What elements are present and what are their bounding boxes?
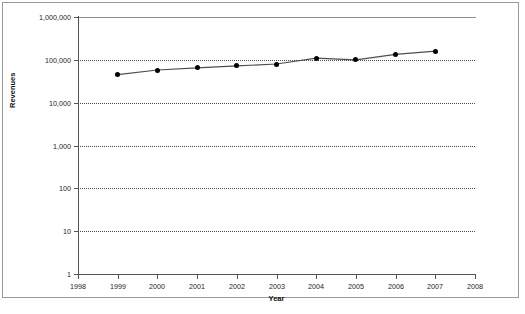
x-tick (356, 275, 357, 279)
x-tick (316, 275, 317, 279)
x-tick-label: 1998 (58, 282, 98, 291)
x-tick (277, 275, 278, 279)
gridline-y (78, 188, 475, 189)
data-point-marker (433, 49, 438, 54)
x-tick-label: 2007 (415, 282, 455, 291)
gridline-y (78, 103, 475, 104)
x-tick (237, 275, 238, 279)
x-tick (396, 275, 397, 279)
y-tick (74, 103, 78, 104)
x-tick-label: 2001 (177, 282, 217, 291)
x-tick (78, 275, 79, 279)
x-tick-label: 2004 (296, 282, 336, 291)
x-tick-label: 2008 (455, 282, 495, 291)
y-tick-label: 100 (9, 184, 71, 193)
x-tick-label: 2003 (257, 282, 297, 291)
y-tick (74, 17, 78, 18)
data-point-marker (274, 62, 279, 67)
data-point-marker (195, 65, 200, 70)
x-axis-title: Year (78, 294, 475, 303)
x-tick-label: 1999 (98, 282, 138, 291)
x-tick-label: 2006 (376, 282, 416, 291)
y-tick-label: 1,000 (9, 142, 71, 151)
gridline-y (78, 60, 475, 61)
y-tick-label: 1,000,000 (9, 13, 71, 22)
x-tick (475, 275, 476, 279)
y-tick (74, 60, 78, 61)
figure-frame (2, 2, 519, 298)
y-tick (74, 146, 78, 147)
x-tick (435, 275, 436, 279)
y-tick (74, 188, 78, 189)
x-tick-label: 2000 (137, 282, 177, 291)
gridline-y (78, 146, 475, 147)
x-tick (157, 275, 158, 279)
y-tick-label: 100,000 (9, 56, 71, 65)
x-tick (197, 275, 198, 279)
x-tick-label: 2002 (217, 282, 257, 291)
plot-area (81, 20, 478, 277)
y-tick (74, 231, 78, 232)
data-point-marker (393, 52, 398, 57)
y-axis-title: Revenues (8, 73, 17, 108)
gridline-y (78, 231, 475, 232)
x-tick-label: 2005 (336, 282, 376, 291)
y-tick-label: 10,000 (9, 99, 71, 108)
data-point-marker (314, 56, 319, 61)
plot-top-border (78, 17, 476, 18)
chart-screenshot: 1101001,00010,000100,0001,000,000 199819… (0, 0, 525, 314)
x-tick (118, 275, 119, 279)
y-tick-label: 10 (9, 227, 71, 236)
y-tick-label: 1 (9, 270, 71, 279)
data-point-marker (155, 68, 160, 73)
